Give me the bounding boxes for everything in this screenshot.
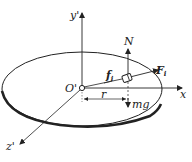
weight-label: mg [132,98,149,111]
radius-label: r [101,88,107,101]
friction-label: fi [105,69,114,83]
z-axis-label: z' [5,140,15,153]
block [122,73,133,83]
x-axis-label: x [180,88,187,101]
y-axis-label: y' [69,9,79,22]
normal-force-label: N [123,35,134,48]
origin-point [79,85,84,90]
inertial-force-arrow [130,70,158,77]
origin-label: O' [65,82,77,95]
diagram-canvas: y' x z' O' N fi Fi r mg [0,0,192,162]
inertial-force-label: Fi [155,64,167,78]
